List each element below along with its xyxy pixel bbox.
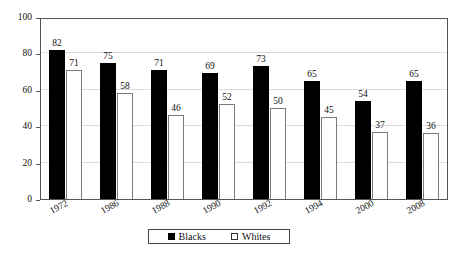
bar-value-label: 82	[45, 38, 69, 48]
bar-whites-1994	[321, 117, 337, 199]
bar-value-label: 52	[215, 92, 239, 102]
plot-area: 82717558714669527350654554376536	[40, 18, 448, 200]
bar-value-label: 46	[164, 103, 188, 113]
bar-whites-1972	[66, 70, 82, 199]
bar-value-label: 69	[198, 61, 222, 71]
bar-whites-1990	[219, 104, 235, 199]
y-axis-tick-label: 80	[2, 49, 32, 59]
bar-blacks-1992	[253, 66, 269, 199]
x-axis-tick-label: 1986	[99, 198, 120, 216]
chart-legend: Blacks Whites	[148, 229, 290, 244]
x-axis-tick-label: 1990	[201, 198, 222, 216]
bar-value-label: 45	[317, 105, 341, 115]
bar-whites-2008	[423, 133, 439, 199]
bar-whites-1988	[168, 115, 184, 199]
legend-item-blacks: Blacks	[168, 232, 206, 242]
bar-value-label: 75	[96, 51, 120, 61]
bar-whites-1986	[117, 93, 133, 199]
bar-value-label: 71	[62, 58, 86, 68]
legend-label-blacks: Blacks	[179, 232, 206, 242]
bar-blacks-2000	[355, 101, 371, 199]
x-axis-tick-label: 1972	[48, 198, 69, 216]
bar-blacks-1972	[49, 50, 65, 199]
legend-label-whites: Whites	[242, 232, 270, 242]
bar-value-label: 36	[419, 121, 443, 131]
open-square-icon	[231, 233, 238, 240]
bar-value-label: 65	[402, 69, 426, 79]
bar-value-label: 71	[147, 58, 171, 68]
y-axis-tick-label: 20	[2, 159, 32, 169]
bar-blacks-1994	[304, 81, 320, 199]
bar-value-label: 54	[351, 89, 375, 99]
x-axis-tick-label: 2000	[354, 198, 375, 216]
legend-item-whites: Whites	[231, 232, 270, 242]
bar-value-label: 50	[266, 96, 290, 106]
y-axis-tick-label: 100	[2, 13, 32, 23]
bar-value-label: 58	[113, 81, 137, 91]
bar-whites-2000	[372, 132, 388, 199]
bar-value-label: 73	[249, 54, 273, 64]
bar-value-label: 37	[368, 120, 392, 130]
x-axis-tick-label: 1994	[303, 198, 324, 216]
y-axis-tick-label: 60	[2, 86, 32, 96]
y-axis-tick-label: 0	[2, 195, 32, 205]
y-axis-tick-label: 40	[2, 122, 32, 132]
x-axis-tick-label: 2008	[405, 198, 426, 216]
filled-square-icon	[168, 233, 175, 240]
bar-chart: 020406080100 827175587146695273506545543…	[0, 0, 456, 258]
bar-value-label: 65	[300, 69, 324, 79]
bar-whites-1992	[270, 108, 286, 199]
bar-blacks-1988	[151, 70, 167, 199]
bar-blacks-2008	[406, 81, 422, 199]
y-axis-tick-mark	[36, 200, 40, 201]
x-axis-tick-label: 1988	[150, 198, 171, 216]
x-axis-tick-label: 1992	[252, 198, 273, 216]
